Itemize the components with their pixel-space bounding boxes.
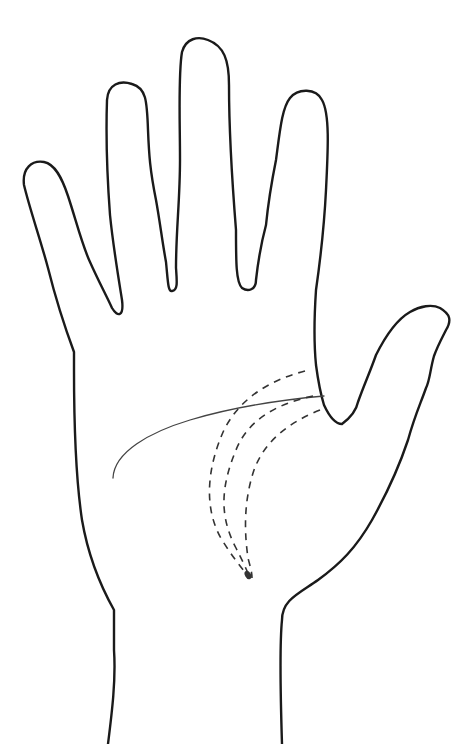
life-line-dashed-3 — [246, 410, 320, 578]
hand-outline — [24, 38, 450, 744]
heart-line — [113, 396, 324, 478]
life-line-variants — [209, 371, 320, 580]
palm-diagram — [0, 0, 470, 744]
hand-illustration — [0, 0, 470, 744]
life-line-dashed-1 — [209, 371, 305, 576]
life-line-dashed-2 — [224, 396, 313, 576]
